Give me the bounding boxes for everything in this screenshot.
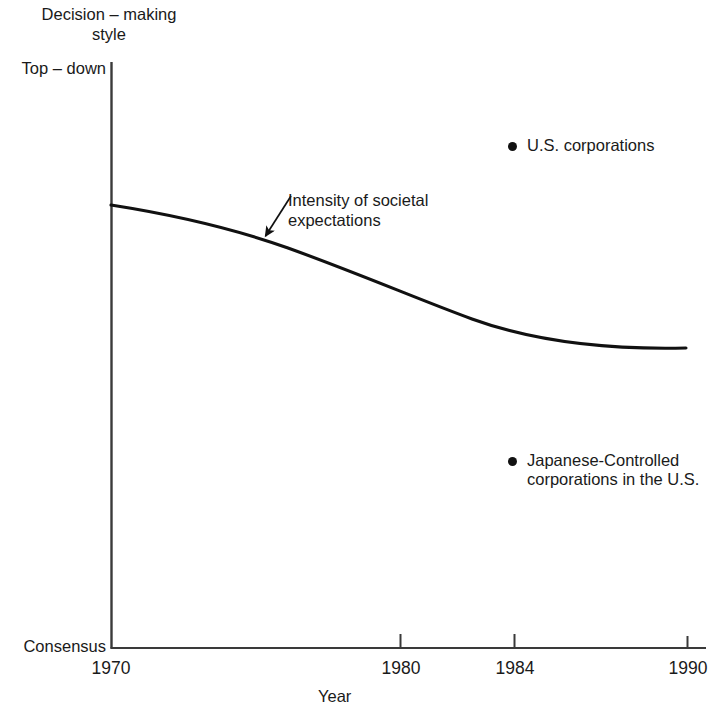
legend-item-label: Japanese-Controlled corporations in the …	[527, 451, 699, 489]
x-axis-label-1980: 1980	[382, 658, 421, 679]
legend-item-japanese-controlled-corporations: Japanese-Controlled corporations in the …	[508, 451, 699, 489]
legend-bullet-icon	[508, 142, 517, 151]
legend-bullet-icon	[508, 457, 517, 466]
x-axis-label-1990: 1990	[669, 658, 708, 679]
y-axis-label-top: Top – down	[22, 58, 106, 78]
y-axis-label-bottom: Consensus	[23, 636, 106, 656]
legend-item-label: U.S. corporations	[527, 136, 654, 155]
chart-figure: Decision – making style Top – down Conse…	[0, 0, 722, 715]
y-axis-title: Decision – making style	[0, 4, 218, 44]
legend-item-us-corporations: U.S. corporations	[508, 136, 654, 155]
chart-plot-area	[0, 0, 722, 715]
x-axis-title: Year	[318, 686, 351, 706]
x-axis-label-1970: 1970	[92, 658, 131, 679]
curve-annotation-label: Intensity of societal expectations	[288, 190, 428, 230]
x-axis-label-1984: 1984	[496, 658, 535, 679]
